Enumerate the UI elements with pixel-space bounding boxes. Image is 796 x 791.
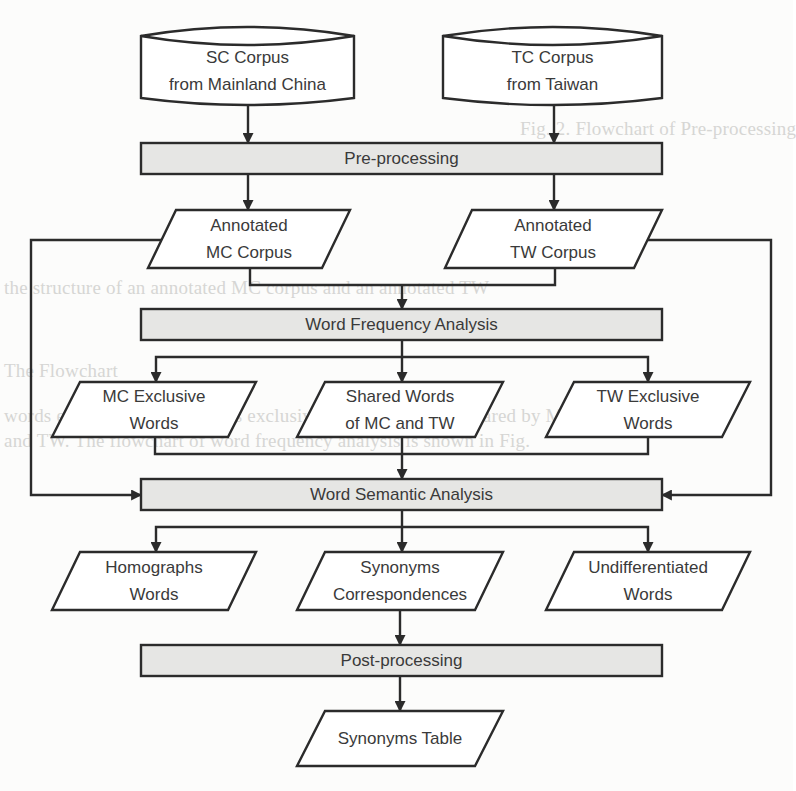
label-line: Post-processing [341, 651, 463, 671]
tw-exclusive-label: TW Exclusive Words [560, 382, 736, 437]
label-line: Word Semantic Analysis [310, 485, 493, 505]
label-line: from Mainland China [169, 71, 326, 98]
undifferentiated-label: Undifferentiated Words [560, 552, 736, 610]
label-line: Words [130, 410, 179, 437]
label-line: Words [624, 410, 673, 437]
label-line: of MC and TW [345, 410, 454, 437]
sc-corpus-label: SC Corpus from Mainland China [141, 44, 354, 98]
label-line: SC Corpus [206, 44, 289, 71]
label-line: Annotated [210, 212, 288, 239]
label-line: TW Corpus [510, 239, 596, 266]
merge-connector [250, 268, 555, 285]
label-line: Correspondences [333, 581, 467, 608]
mc-exclusive-label: MC Exclusive Words [66, 382, 242, 437]
arrow [156, 527, 402, 552]
label-line: TW Exclusive [597, 383, 700, 410]
shared-words-label: Shared Words of MC and TW [311, 382, 489, 437]
label-line: Words [624, 581, 673, 608]
word-semantic-label: Word Semantic Analysis [141, 479, 662, 510]
label-line: Shared Words [346, 383, 454, 410]
synonyms-table-label: Synonyms Table [311, 711, 489, 766]
label-line: Homographs [105, 554, 202, 581]
label-line: TC Corpus [511, 44, 593, 71]
label-line: Synonyms [360, 554, 439, 581]
tc-corpus-label: TC Corpus from Taiwan [443, 44, 662, 98]
arrow [402, 357, 648, 382]
homographs-label: Homographs Words [66, 552, 242, 610]
post-processing-label: Post-processing [141, 645, 662, 676]
label-line: Word Frequency Analysis [305, 315, 497, 335]
label-line: Pre-processing [344, 149, 458, 169]
label-line: Synonyms Table [338, 725, 462, 752]
label-line: Words [130, 581, 179, 608]
arrow [156, 357, 402, 382]
label-line: MC Corpus [206, 239, 292, 266]
label-line: MC Exclusive [103, 383, 206, 410]
synonyms-correspondences-label: Synonyms Correspondences [311, 552, 489, 610]
label-line: Annotated [514, 212, 592, 239]
annotated-tw-label: Annotated TW Corpus [458, 210, 648, 268]
left-loop-arrow [31, 240, 162, 495]
right-loop-arrow [648, 240, 771, 495]
label-line: Undifferentiated [588, 554, 708, 581]
pre-processing-label: Pre-processing [141, 143, 662, 174]
arrow [402, 527, 648, 552]
word-frequency-label: Word Frequency Analysis [141, 309, 662, 340]
label-line: from Taiwan [507, 71, 598, 98]
annotated-mc-label: Annotated MC Corpus [162, 210, 336, 268]
